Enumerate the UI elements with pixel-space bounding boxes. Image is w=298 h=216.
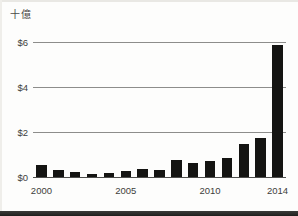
- y-tick-label-4: $4: [17, 82, 28, 93]
- bar-2001: [53, 170, 63, 177]
- bar-2008: [171, 160, 181, 177]
- bar-2012: [239, 144, 249, 177]
- plot-area: $6$4$2$0 2000200520102014: [33, 42, 286, 177]
- scan-left-edge: [0, 0, 2, 216]
- y-tick-label-6: $6: [17, 37, 28, 48]
- x-tick-label-2000: 2000: [31, 185, 52, 196]
- x-tick-label-2005: 2005: [115, 185, 136, 196]
- bar-2013: [255, 138, 265, 177]
- bar-2004: [104, 173, 114, 178]
- y-tick-label-2: $2: [17, 127, 28, 138]
- gridline-0: [33, 177, 286, 178]
- bar-2011: [222, 158, 232, 177]
- bar-2002: [70, 172, 80, 177]
- bar-2009: [188, 163, 198, 177]
- y-axis-unit-label: 十億: [10, 9, 31, 21]
- bars-group: [33, 42, 286, 177]
- scan-top-edge: [0, 0, 298, 2]
- bar-2010: [205, 161, 215, 177]
- bar-2006: [137, 169, 147, 177]
- x-tick-label-2014: 2014: [267, 185, 288, 196]
- bar-2005: [121, 171, 131, 177]
- chart-page: 十億 $6$4$2$0 2000200520102014: [0, 0, 298, 216]
- y-tick-label-0: $0: [17, 172, 28, 183]
- bar-2007: [154, 170, 164, 177]
- bar-2014: [272, 45, 282, 177]
- bar-2003: [87, 174, 97, 177]
- x-tick-label-2010: 2010: [200, 185, 221, 196]
- bar-2000: [36, 165, 46, 177]
